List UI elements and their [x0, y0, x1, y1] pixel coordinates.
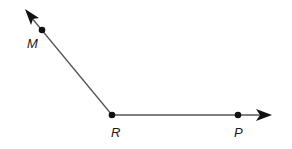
- point-p: [235, 112, 242, 119]
- angle-diagram: M R P: [0, 0, 292, 149]
- label-m: M: [27, 36, 38, 51]
- arrowhead-icon: [25, 9, 39, 25]
- label-r: R: [111, 125, 120, 140]
- point-r: [109, 112, 116, 119]
- point-m: [39, 27, 46, 34]
- label-p: P: [234, 125, 243, 140]
